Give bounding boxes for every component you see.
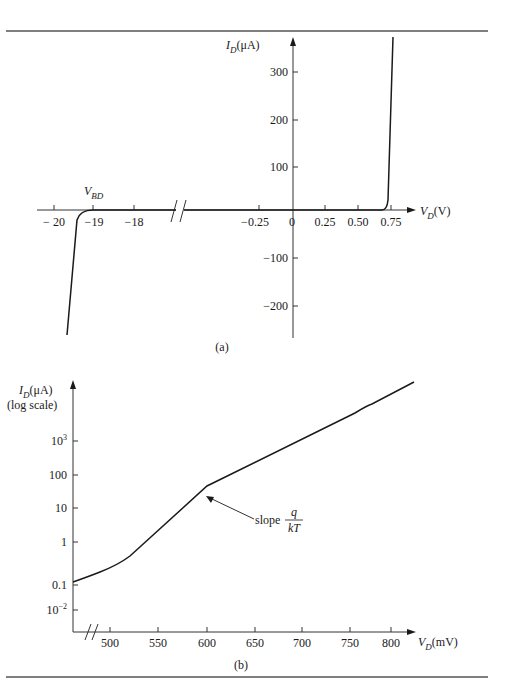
panel-a-caption: (a) — [215, 340, 228, 354]
panel-b-x-tick: 500 — [101, 636, 119, 650]
panel-b-x-tick: 550 — [149, 636, 167, 650]
panel-a-x-tick: −18 — [125, 215, 144, 229]
panel-a-x-tick: 0 — [289, 215, 295, 229]
panel-b-y-tick: 100 — [49, 468, 67, 482]
panel-b-y-tick: 0.1 — [52, 578, 67, 592]
panel-a-x-tick: −0.25 — [241, 215, 269, 229]
panel-a-y-tick: 100 — [270, 160, 288, 174]
panel-b-y-tick: 103 — [51, 433, 67, 448]
panel-b-x-tick: 700 — [293, 636, 311, 650]
panel-b-chart: 103 100 10 1 0.1 10−2 500 550 600 650 70… — [7, 380, 458, 672]
panel-b-caption: (b) — [234, 658, 248, 672]
panel-a-y-tick: −200 — [263, 299, 288, 313]
panel-b-y-tick: 10−2 — [46, 602, 67, 617]
axis-break-mark — [180, 200, 186, 222]
panel-b-x-axis-label: VD(mV) — [418, 635, 458, 652]
panel-b-y-tick: 1 — [61, 535, 67, 549]
panel-a-forward-curve — [184, 37, 393, 210]
panel-b-log-scale-note: (log scale) — [7, 398, 57, 412]
panel-a-x-tick: 0.25 — [315, 215, 336, 229]
panel-a-chart: 300 200 100 −100 −200 − 20 −19 −18 −0.25… — [37, 37, 451, 354]
panel-b-x-tick: 750 — [341, 636, 359, 650]
slope-denominator: kT — [288, 521, 301, 535]
panel-b-curve — [73, 382, 414, 582]
axis-break-mark — [171, 200, 177, 222]
panel-a-x-tick: 0.75 — [381, 215, 402, 229]
panel-a-y-tick: 300 — [270, 65, 288, 79]
panel-b-x-tick: 600 — [198, 636, 216, 650]
panel-a-x-axis-label: VD(V) — [420, 204, 451, 221]
panel-a-x-tick: −19 — [85, 215, 104, 229]
panel-a-x-tick: − 20 — [43, 215, 65, 229]
slope-pointer-line — [212, 499, 254, 519]
panel-b-y-arrow-icon — [70, 380, 76, 389]
panel-b-y-tick: 10 — [55, 501, 67, 515]
panel-a-y-tick: −100 — [263, 251, 288, 265]
slope-numerator: q — [291, 505, 297, 519]
panel-b-x-tick: 800 — [382, 636, 400, 650]
panel-a-y-arrow-icon — [290, 37, 296, 46]
panel-a-x-arrow-icon — [407, 207, 416, 213]
slope-label: slope — [255, 513, 280, 527]
figure-canvas: 300 200 100 −100 −200 − 20 −19 −18 −0.25… — [0, 0, 513, 683]
vbd-label: VBD — [84, 184, 104, 201]
panel-b-x-arrow-icon — [407, 629, 416, 635]
panel-a-y-axis-label: ID(μA) — [225, 38, 260, 55]
panel-b-x-tick: 650 — [246, 636, 264, 650]
panel-a-y-tick: 200 — [270, 113, 288, 127]
panel-a-x-tick: 0.50 — [348, 215, 369, 229]
